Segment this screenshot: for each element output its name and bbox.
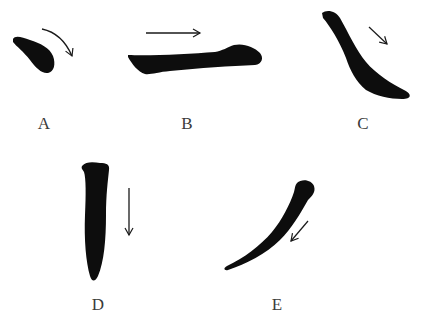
stroke-a (13, 29, 72, 73)
stroke-c-ink (322, 11, 410, 99)
label-d: D (92, 296, 104, 313)
stroke-e-ink (224, 180, 314, 270)
stroke-d (82, 162, 129, 280)
stroke-c (322, 11, 410, 99)
label-c: C (357, 115, 368, 132)
strokes-diagram (0, 0, 421, 320)
stroke-e (224, 180, 314, 270)
stroke-c-arrow-icon (369, 27, 387, 44)
label-e: E (272, 296, 282, 313)
stroke-a-ink (13, 37, 54, 73)
label-b: B (181, 115, 192, 132)
stroke-b-ink (128, 44, 262, 74)
stroke-d-ink (82, 162, 110, 280)
stroke-e-arrow-icon (291, 221, 308, 241)
stroke-b (128, 33, 262, 74)
label-a: A (38, 115, 50, 132)
